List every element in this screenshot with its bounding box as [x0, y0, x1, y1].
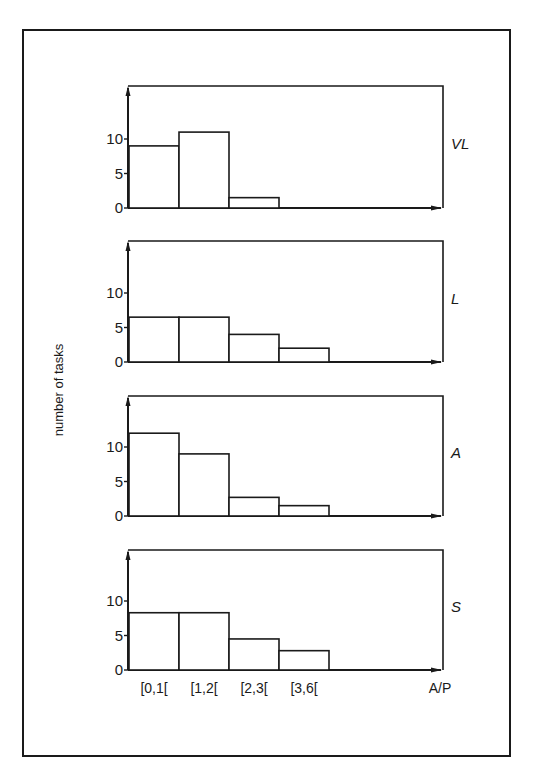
histogram-panels: 0510VL0510L0510A0510S[0,1[[1,2[[2,3[[3,6… [0, 0, 540, 774]
y-tick-label: 10 [106, 130, 123, 147]
histogram-bar [229, 639, 279, 670]
histogram-bar [279, 651, 329, 670]
panel-label: L [451, 290, 459, 307]
x-arrow-icon [431, 668, 442, 673]
x-arrow-icon [431, 514, 442, 519]
histogram-bar [229, 497, 279, 516]
histogram-bar [229, 334, 279, 362]
panel-label: VL [451, 135, 469, 152]
y-tick-label: 0 [115, 507, 123, 524]
panel-label: S [451, 598, 461, 615]
histogram-bar [179, 132, 229, 208]
y-arrow-icon [126, 241, 131, 251]
y-arrow-icon [126, 396, 131, 406]
x-category-label: [3,6[ [290, 680, 317, 696]
panel-a: 0510A [106, 396, 461, 524]
y-tick-label: 5 [115, 627, 123, 644]
panel-vl: 0510VL [106, 86, 469, 216]
y-tick-label: 10 [106, 592, 123, 609]
y-tick-label: 10 [106, 438, 123, 455]
histogram-bar [229, 198, 279, 208]
histogram-bar [179, 613, 229, 670]
y-tick-label: 5 [115, 319, 123, 336]
histogram-bar [129, 433, 179, 516]
y-tick-label: 0 [115, 353, 123, 370]
y-tick-label: 0 [115, 661, 123, 678]
y-arrow-icon [126, 550, 131, 560]
histogram-bar [179, 454, 229, 516]
y-tick-label: 10 [106, 284, 123, 301]
histogram-bar [129, 146, 179, 208]
histogram-bar [129, 613, 179, 670]
x-arrow-icon [431, 206, 442, 211]
panel-l: 0510L [106, 241, 459, 370]
x-category-label: [0,1[ [140, 680, 167, 696]
x-category-label: [2,3[ [240, 680, 267, 696]
panel-s: 0510S [106, 550, 461, 678]
histogram-bar [129, 317, 179, 362]
histogram-bar [279, 348, 329, 362]
x-category-label: [1,2[ [190, 680, 217, 696]
histogram-bar [179, 317, 229, 362]
histogram-bar [279, 506, 329, 516]
x-arrow-icon [431, 360, 442, 365]
y-tick-label: 5 [115, 165, 123, 182]
x-axis-label: A/P [429, 680, 452, 696]
panel-label: A [450, 444, 461, 461]
y-arrow-icon [126, 86, 131, 96]
y-tick-label: 5 [115, 473, 123, 490]
y-tick-label: 0 [115, 199, 123, 216]
